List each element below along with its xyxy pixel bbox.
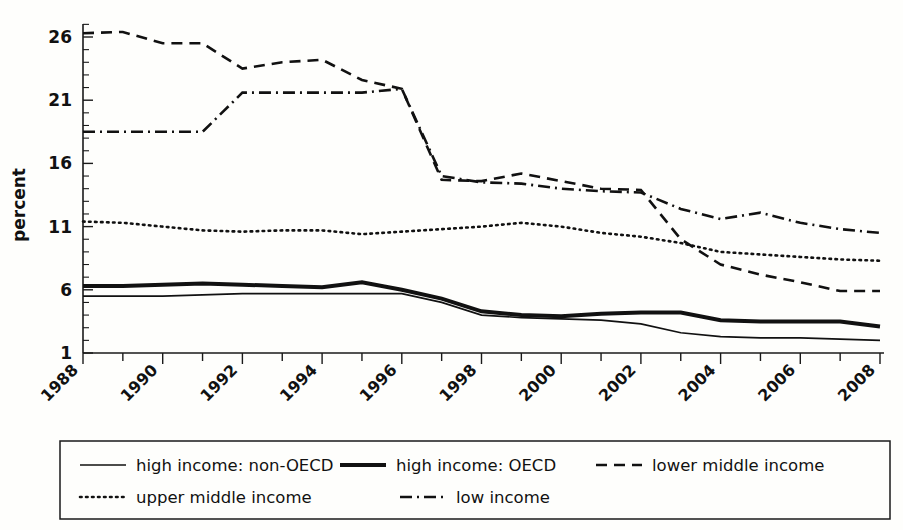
y-axis-major-ticks: [83, 37, 93, 353]
y-axis-tick-label: 1: [60, 343, 72, 363]
y-axis-title: percent: [9, 168, 29, 242]
x-axis-tick-label: 2002: [595, 360, 640, 405]
x-axis-tick-label: 1990: [117, 360, 162, 405]
y-axis-tick-label: 16: [48, 153, 72, 173]
series-line-high-income-oecd: [83, 282, 880, 326]
x-axis-tick-label: 1996: [356, 360, 401, 405]
y-axis-title-text: percent: [9, 168, 29, 242]
legend-label: high income: OECD: [396, 456, 556, 475]
y-axis-minor-ticks: [83, 24, 89, 340]
x-axis-tick-label: 2008: [834, 360, 879, 405]
series-line-lower-middle-income: [83, 32, 880, 291]
x-axis-tick-label: 1988: [37, 360, 82, 405]
series-line-low-income: [83, 89, 880, 233]
x-axis-ticks: [83, 353, 880, 364]
x-axis-tick-label: 1994: [276, 360, 321, 405]
legend-box: [60, 441, 890, 519]
series-line-upper-middle-income: [83, 222, 880, 261]
x-axis-tick-label: 2004: [675, 360, 720, 405]
x-axis-tick-labels: 1988199019921994199619982000200220042006…: [37, 360, 879, 405]
y-axis-tick-label: 6: [60, 280, 72, 300]
y-axis-tick-label: 21: [48, 90, 72, 110]
y-axis-tick-labels: 1611162126: [48, 27, 72, 363]
legend-label: lower middle income: [652, 456, 824, 475]
series-line-high-income-non-oecd: [83, 294, 880, 341]
legend-label: high income: non-OECD: [136, 456, 334, 475]
y-axis-tick-label: 26: [48, 27, 72, 47]
data-series-group: [83, 32, 880, 340]
line-chart: percent 1611162126 198819901992199419961…: [0, 0, 903, 530]
x-axis-tick-label: 1992: [196, 360, 241, 405]
x-axis-tick-label: 2006: [754, 360, 799, 405]
chart-container: percent 1611162126 198819901992199419961…: [0, 0, 903, 530]
y-axis-tick-label: 11: [48, 217, 72, 237]
legend-label: upper middle income: [136, 488, 312, 507]
legend-label: low income: [456, 488, 550, 507]
x-axis-tick-label: 2000: [515, 360, 560, 405]
x-axis-tick-label: 1998: [435, 360, 480, 405]
